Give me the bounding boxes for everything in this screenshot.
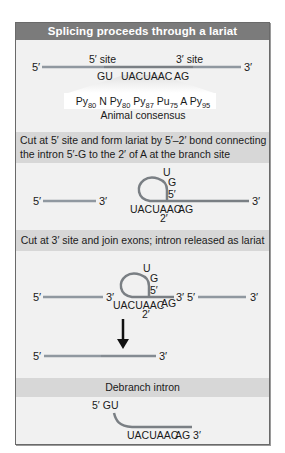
loop-5-prime: 5′ [168, 188, 176, 200]
consensus-label: Animal consensus [100, 109, 185, 121]
seq-gu: GU [97, 70, 113, 82]
pre-mrna-5-prime: 5′ [32, 61, 40, 73]
tail-3-prime: 3′ [252, 195, 260, 207]
seq-ag: AG [174, 70, 189, 82]
branch-2-prime: 2′ [160, 212, 168, 224]
released-lariat [121, 274, 174, 297]
splicing-diagram: 5′ 3′ 5′ site 3′ site GU UACUAAC AG Py80… [16, 23, 271, 446]
exon1-3-prime: 3′ [99, 195, 107, 207]
debranch-ag-3-prime: AG 3′ [175, 429, 201, 441]
figure-frame: Splicing proceeds through a lariat Cut a… [15, 22, 270, 445]
five-prime-site-label: 5′ site [89, 53, 116, 65]
branch-2-prime: 2′ [142, 308, 150, 320]
exon2-5-prime: 5′ [187, 291, 195, 303]
loop-5-prime: 5′ [150, 284, 158, 296]
down-arrow-icon [117, 339, 129, 349]
linear-intron [114, 413, 192, 427]
debranch-seq: UACUAAC [127, 429, 179, 441]
exon1-5-prime: 5′ [33, 195, 41, 207]
seq-branch: UACUAAC [121, 70, 173, 82]
exon1-5-prime: 5′ [33, 291, 41, 303]
branch-seq: UACUAAC [113, 299, 165, 311]
lariat-loop [139, 178, 249, 201]
debranched-intron-diagram: 5′ GU UACUAAC AG 3′ [92, 399, 201, 441]
joined-3-prime: 3′ [159, 350, 167, 362]
exon2-3-prime: 3′ [250, 291, 258, 303]
pre-mrna-diagram: 5′ 3′ 5′ site 3′ site GU UACUAAC AG Py80… [32, 53, 252, 121]
joined-5-prime: 5′ [33, 350, 41, 362]
exon-joining-diagram: 5′ 3′ U G 5′ 3′ 5′ 3′ UACUAAC AG 2′ 5′ 3… [33, 262, 258, 362]
branch-seq: UACUAAC [130, 203, 182, 215]
branch-ag: AG [161, 297, 176, 309]
lariat-formation-diagram: 5′ 3′ U G 5′ 3′ UACUAAC AG 2′ [33, 166, 260, 224]
pre-mrna-3-prime: 3′ [244, 61, 252, 73]
loop-g: G [168, 176, 176, 188]
lariat-3-prime: 3′ [176, 291, 184, 303]
branch-ag: AG [178, 203, 193, 215]
debranch-gu-label: 5′ GU [92, 399, 118, 411]
three-prime-site-label: 3′ site [176, 53, 203, 65]
loop-g: G [150, 272, 158, 284]
